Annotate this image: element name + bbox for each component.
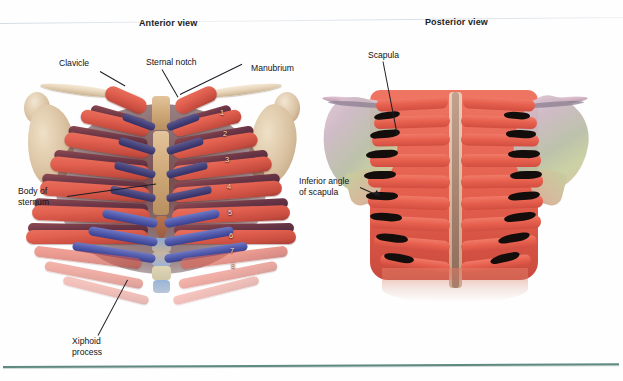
label-body-of-sternum-line1: Body of xyxy=(18,186,47,196)
panel-title-anterior: Anterior view xyxy=(139,18,197,28)
label-manubrium: Manubrium xyxy=(251,63,294,74)
intercostal-gap-left-4 xyxy=(364,171,396,179)
label-xiphoid-process: Xiphoid process xyxy=(72,336,102,357)
rib-number-1: 1 xyxy=(220,108,224,117)
panel-title-posterior: Posterior view xyxy=(425,17,488,27)
scan-line-top xyxy=(0,17,623,24)
figure-divider-rule xyxy=(3,363,619,368)
lower-thorax-fade xyxy=(382,268,528,302)
xiphoid-lower-3 xyxy=(152,266,171,280)
label-scapula: Scapula xyxy=(368,50,399,61)
label-sternal-notch: Sternal notch xyxy=(146,57,197,68)
label-inferior-angle-line2: of scapula xyxy=(299,187,338,197)
posterior-view-illustration xyxy=(318,62,610,332)
label-clavicle: Clavicle xyxy=(59,58,89,69)
rib-number-8: 8 xyxy=(231,261,235,270)
rib-number-7: 7 xyxy=(230,246,234,255)
rib-number-6: 6 xyxy=(229,231,233,240)
label-xiphoid-process-line2: process xyxy=(72,347,102,357)
rib-number-4: 4 xyxy=(227,182,231,191)
label-inferior-angle-of-scapula: Inferior angle of scapula xyxy=(299,176,349,197)
rib-number-3: 3 xyxy=(225,155,229,164)
rib-number-5: 5 xyxy=(228,208,232,217)
anatomy-figure: Anterior view Posterior view xyxy=(0,0,623,381)
label-xiphoid-process-line1: Xiphoid xyxy=(72,336,101,346)
spinous-process-shadow xyxy=(452,92,459,288)
label-body-of-sternum: Body of sternum xyxy=(18,186,49,207)
intercostal-gap-right-4 xyxy=(510,171,542,179)
label-inferior-angle-line1: Inferior angle xyxy=(299,176,349,186)
label-body-of-sternum-line2: sternum xyxy=(18,197,49,207)
anterior-view-illustration: 1 2 3 4 5 6 7 8 xyxy=(18,62,308,342)
rib-number-2: 2 xyxy=(223,129,227,138)
xiphoid-tip xyxy=(153,280,170,293)
intercostal-gap-right-3 xyxy=(508,149,540,158)
